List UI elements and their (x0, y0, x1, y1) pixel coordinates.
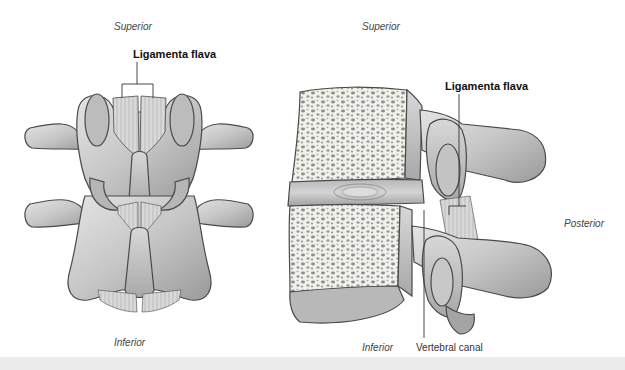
right-superior-label: Superior (362, 21, 400, 32)
right-inferior-label: Inferior (362, 342, 393, 353)
left-superior-label: Superior (114, 21, 152, 32)
posterior-view-vertebrae (25, 94, 253, 312)
left-ligamenta-flava-label: Ligamenta flava (133, 48, 216, 60)
anatomy-figure: Superior Ligamenta flava Inferior Superi… (0, 0, 625, 370)
left-ligamenta-leader (122, 62, 153, 98)
right-ligamenta-flava-label: Ligamenta flava (445, 80, 528, 92)
posterior-label: Posterior (564, 218, 604, 229)
vertebral-canal-label: Vertebral canal (416, 342, 483, 353)
lateral-view-vertebrae (288, 87, 551, 334)
vertebrae-illustration (0, 0, 625, 370)
footer-band (0, 357, 625, 370)
left-inferior-label: Inferior (114, 337, 145, 348)
